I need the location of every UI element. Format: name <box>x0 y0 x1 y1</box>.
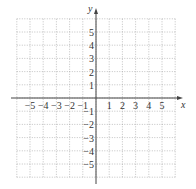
svg-text:1: 1 <box>107 100 112 111</box>
svg-text:3: 3 <box>89 53 94 64</box>
svg-text:−1: −1 <box>83 106 94 117</box>
svg-text:1: 1 <box>89 80 94 91</box>
svg-text:−5: −5 <box>83 159 94 170</box>
svg-text:−3: −3 <box>51 100 62 111</box>
svg-text:−2: −2 <box>83 119 94 130</box>
svg-text:5: 5 <box>89 27 94 38</box>
svg-text:4: 4 <box>146 100 151 111</box>
svg-text:5: 5 <box>160 100 165 111</box>
axes <box>11 8 183 184</box>
svg-text:−3: −3 <box>83 133 94 144</box>
svg-text:−4: −4 <box>83 146 94 157</box>
svg-text:−4: −4 <box>38 100 49 111</box>
y-axis-label: y <box>87 3 93 14</box>
svg-text:3: 3 <box>133 100 138 111</box>
svg-text:−2: −2 <box>64 100 75 111</box>
svg-text:4: 4 <box>89 40 94 51</box>
svg-text:2: 2 <box>120 100 125 111</box>
svg-text:2: 2 <box>89 67 94 78</box>
x-axis-label: x <box>180 99 186 110</box>
coordinate-plane: −5−4−3−2−11234554321−1−2−3−4−5 x y <box>0 0 196 189</box>
svg-text:−5: −5 <box>25 100 36 111</box>
